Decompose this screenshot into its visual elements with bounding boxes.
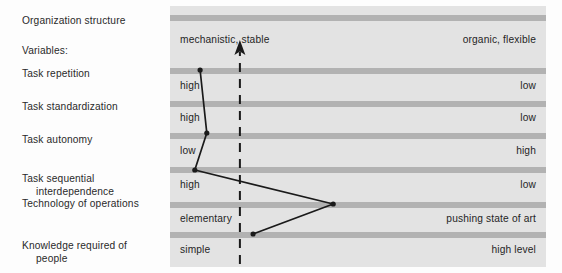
- row-label-knowledge-required-of-people: Knowledge required of people: [22, 228, 170, 273]
- variables-subheading: Variables:: [22, 45, 170, 57]
- profile-polyline: [195, 70, 333, 234]
- pole-label-left: mechanistic, stable: [180, 34, 269, 45]
- separator-band: [170, 68, 546, 74]
- scale-value-left-task-repetition: high: [180, 80, 200, 91]
- scale-value-right-technology-of-operations: pushing state of art: [446, 213, 536, 224]
- label-column: Organization structure Variables: Task r…: [0, 0, 170, 273]
- separator-band: [170, 15, 546, 21]
- pole-label-right: organic, flexible: [463, 34, 536, 45]
- organization-structure-figure: Organization structure Variables: Task r…: [0, 0, 562, 273]
- row-label-task-repetition: Task repetition: [22, 68, 170, 80]
- row-label-line1: Task sequential: [22, 173, 94, 184]
- row-label-line2: interdependence: [22, 186, 170, 198]
- separator-band: [170, 133, 546, 139]
- figure-heading: Organization structure: [22, 15, 170, 27]
- separator-band: [170, 232, 546, 238]
- scale-value-right-task-sequential-interdependence: low: [520, 179, 536, 190]
- separator-band: [170, 202, 546, 208]
- scale-value-right-task-standardization: low: [520, 112, 536, 123]
- row-label-technology-of-operations: Technology of operations: [22, 198, 170, 210]
- scale-value-left-task-sequential-interdependence: high: [180, 179, 200, 190]
- scale-panel: mechanistic, stable organic, flexible hi…: [170, 6, 546, 267]
- separator-band: [170, 101, 546, 107]
- profile-markers: [192, 67, 336, 236]
- row-label-task-standardization: Task standardization: [22, 101, 170, 113]
- scale-value-left-task-autonomy: low: [180, 145, 196, 156]
- scale-value-left-technology-of-operations: elementary: [180, 213, 232, 224]
- scale-value-right-knowledge-required: high level: [491, 244, 536, 255]
- separator-band: [170, 167, 546, 173]
- scale-value-left-knowledge-required: simple: [180, 244, 210, 255]
- row-label-task-autonomy: Task autonomy: [22, 134, 170, 146]
- scale-value-right-task-repetition: low: [520, 80, 536, 91]
- scale-value-right-task-autonomy: high: [516, 145, 536, 156]
- scale-value-left-task-standardization: high: [180, 112, 200, 123]
- row-label-line1: Knowledge required of: [22, 240, 127, 251]
- row-label-line2: people: [22, 253, 170, 265]
